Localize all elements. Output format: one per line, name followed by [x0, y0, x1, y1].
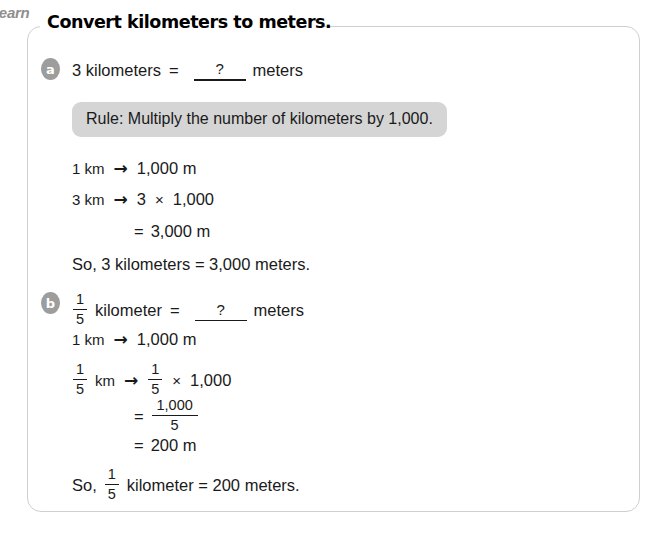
part-a-step-2: 3 km → 3 × 1,000 — [72, 191, 214, 208]
part-a-question: 3 kilometers = ? meters — [72, 60, 303, 80]
part-b-step-4-equals: = — [134, 437, 144, 454]
part-a-marker: a — [41, 58, 60, 80]
part-b-question: 1 5 kilometer = ? meters — [72, 293, 304, 328]
part-b-step-2-value: 1,000 — [190, 372, 231, 389]
part-b-marker: b — [41, 292, 60, 314]
fraction-bar — [152, 415, 198, 417]
part-a-step-1-left: 1 km — [72, 161, 105, 176]
part-a-unit: meters — [253, 62, 303, 79]
fraction-denominator: 5 — [74, 382, 86, 397]
part-a-step-2-value: 1,000 — [173, 191, 214, 208]
rule-box: Rule: Multiply the number of kilometers … — [72, 102, 447, 137]
part-a-quantity: 3 kilometers — [72, 62, 161, 79]
part-a-step-1: 1 km → 1,000 m — [72, 160, 196, 177]
part-a-step-3-result: 3,000 m — [151, 223, 211, 240]
part-a-step-2-left: 3 km — [72, 192, 105, 207]
arrow-icon: → — [114, 160, 128, 177]
part-a-equals: = — [169, 62, 179, 79]
fraction-numerator: 1 — [74, 362, 86, 377]
part-b-conclusion-prefix: So, — [72, 477, 97, 494]
part-a-conclusion: So, 3 kilometers = 3,000 meters. — [72, 256, 310, 273]
fraction-numerator: 1 — [74, 292, 86, 307]
fraction-denominator: 5 — [74, 312, 86, 327]
part-b-step-1-right: 1,000 m — [137, 331, 197, 348]
part-a-blank[interactable]: ? — [194, 61, 246, 81]
arrow-icon: → — [114, 331, 128, 348]
part-b-step-2-unit: km — [95, 373, 115, 388]
part-a-step-1-right: 1,000 m — [137, 160, 197, 177]
lesson-content: a 3 kilometers = ? meters Rule: Multiply… — [27, 26, 640, 512]
part-a-step-3-equals: = — [134, 223, 144, 240]
part-b-step-3: = 1,000 5 — [134, 399, 199, 434]
part-b-step-3-equals: = — [134, 408, 144, 425]
fraction-numerator: 1 — [149, 362, 161, 377]
fraction-bar — [73, 379, 87, 381]
part-b-equals: = — [170, 302, 180, 319]
part-b-step-3-fraction: 1,000 5 — [152, 398, 198, 433]
part-b-step-1-left: 1 km — [72, 332, 105, 347]
part-b-blank[interactable]: ? — [195, 302, 247, 322]
arrow-icon: → — [124, 372, 138, 389]
part-b-unit-word: kilometer — [95, 302, 162, 319]
part-a-step-2-factor: 3 — [137, 191, 146, 208]
part-b-step-2-fraction-2: 1 5 — [148, 362, 162, 397]
fraction-denominator: 5 — [169, 418, 181, 433]
fraction-numerator: 1 — [106, 467, 118, 482]
part-b-unit: meters — [254, 302, 304, 319]
part-a-blank-question-mark: ? — [215, 61, 223, 76]
part-b-step-1: 1 km → 1,000 m — [72, 331, 196, 348]
fraction-bar — [105, 484, 119, 486]
fraction-numerator: 1,000 — [154, 398, 194, 413]
fraction-denominator: 5 — [149, 382, 161, 397]
part-b-conclusion-fraction: 1 5 — [105, 467, 119, 502]
page-title: Convert kilometers to meters. — [47, 12, 331, 32]
part-a-blank-underline — [194, 79, 246, 81]
multiply-icon: × — [155, 192, 164, 207]
part-a-step-3: = 3,000 m — [134, 223, 210, 240]
part-b-conclusion: So, 1 5 kilometer = 200 meters. — [72, 468, 300, 503]
part-b-step-2: 1 5 km → 1 5 × 1,000 — [72, 363, 231, 398]
learn-tab-label: Learn — [0, 4, 29, 21]
part-b-conclusion-text: kilometer = 200 meters. — [127, 477, 300, 494]
fraction-denominator: 5 — [106, 487, 118, 502]
part-b-step-4: = 200 m — [134, 437, 197, 454]
fraction-bar — [73, 309, 87, 311]
arrow-icon: → — [114, 191, 128, 208]
multiply-icon: × — [172, 373, 181, 388]
fraction-bar — [148, 379, 162, 381]
part-b-question-fraction: 1 5 — [73, 292, 87, 327]
part-b-step-2-fraction: 1 5 — [73, 362, 87, 397]
part-b-blank-underline — [195, 320, 247, 322]
part-b-blank-question-mark: ? — [216, 302, 224, 317]
part-b-step-4-result: 200 m — [151, 437, 197, 454]
